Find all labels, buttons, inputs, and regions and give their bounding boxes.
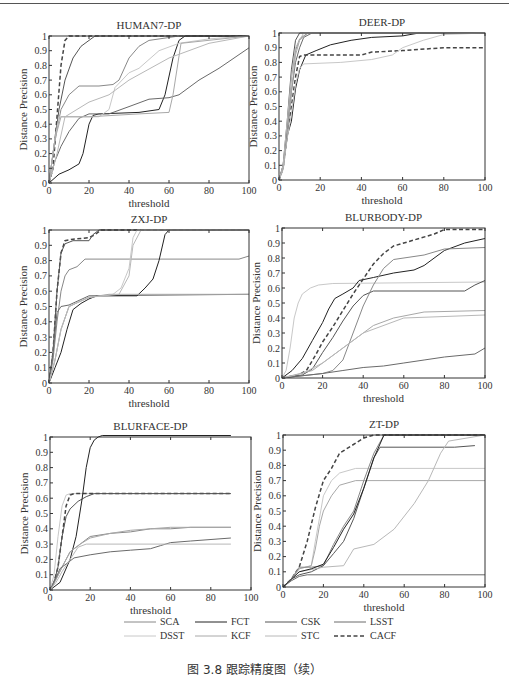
x-tick-label: 20 (84, 385, 94, 396)
chart-title: DEER-DP (359, 16, 405, 28)
y-axis-title: Distance Precision (247, 65, 259, 148)
y-tick-label: 0 (276, 582, 281, 593)
y-tick-label: 0 (272, 175, 277, 186)
y-tick-label: 0.6 (35, 286, 48, 297)
y-tick-label: 0.9 (268, 238, 281, 249)
legend-item-lsst: LSST (334, 616, 393, 627)
series-line-dsst (282, 282, 485, 378)
x-axis-title: threshold (129, 397, 170, 409)
series-line-cacf (283, 435, 485, 587)
legend-label: CSK (301, 616, 321, 627)
y-tick-label: 0 (42, 378, 47, 389)
y-tick-label: 0 (275, 373, 280, 384)
plot-frame (49, 230, 249, 383)
series-line-sca (283, 435, 485, 587)
chart-title: HUMAN7-DP (117, 19, 182, 31)
y-tick-label: 0.5 (35, 104, 48, 115)
x-tick-label: 60 (399, 380, 409, 391)
series-line-fct (282, 239, 485, 379)
series-line-fct (283, 435, 485, 587)
plot-frame (49, 36, 249, 183)
series-line-sca (282, 248, 485, 379)
legend-label: STC (301, 630, 320, 641)
y-tick-label: 0.5 (265, 101, 278, 112)
series-line-kcf (49, 294, 249, 383)
y-tick-label: 0.6 (35, 89, 48, 100)
legend-item-dsst: DSST (124, 630, 184, 641)
y-tick-label: 0.3 (36, 539, 49, 550)
legend: SCAFCTCSKLSSTDSSTKCFSTCCACF (124, 616, 397, 641)
x-tick-label: 20 (318, 589, 328, 600)
y-tick-label: 0.9 (269, 445, 282, 456)
x-tick-label: 80 (204, 185, 214, 196)
y-tick-label: 0.7 (265, 72, 278, 83)
y-tick-label: 0.1 (35, 163, 48, 174)
y-tick-label: 0.1 (269, 566, 282, 577)
x-tick-label: 80 (440, 589, 450, 600)
series-line-stc (283, 435, 485, 587)
y-tick-label: 0.3 (35, 133, 48, 144)
chart-panel-zt-dp: ZT-DP02040608010000.10.20.30.40.50.60.70… (251, 418, 493, 613)
y-tick-label: 0.3 (265, 130, 278, 141)
y-tick-label: 0.4 (36, 523, 49, 534)
series-line-dsst (50, 494, 231, 590)
legend-item-kcf: KCF (195, 630, 251, 641)
series-line-sca (50, 527, 231, 590)
y-tick-label: 0.9 (35, 45, 48, 56)
x-tick-label: 60 (398, 182, 408, 193)
y-tick-label: 0.4 (265, 116, 278, 127)
x-tick-label: 40 (356, 182, 366, 193)
series-line-csk (50, 494, 231, 590)
y-tick-label: 0.3 (268, 328, 281, 339)
legend-label: LSST (370, 616, 393, 627)
y-tick-label: 0.8 (35, 60, 48, 71)
series-line-lsst (50, 538, 231, 590)
x-tick-label: 60 (164, 185, 174, 196)
legend-item-sca: SCA (124, 616, 180, 627)
y-axis-title: Distance Precision (251, 469, 263, 552)
legend-label: CACF (370, 630, 397, 641)
legend-label: KCF (231, 630, 251, 641)
x-tick-label: 80 (204, 385, 214, 396)
x-tick-label: 20 (85, 592, 95, 603)
x-tick-label: 40 (124, 385, 134, 396)
x-tick-label: 100 (478, 182, 493, 193)
series-line-fct (279, 33, 485, 180)
x-tick-label: 0 (280, 380, 285, 391)
series-line-lsst (283, 575, 485, 587)
x-axis-title: threshold (129, 197, 170, 209)
y-tick-label: 0.7 (36, 477, 49, 488)
x-tick-label: 40 (358, 380, 368, 391)
x-tick-label: 100 (244, 592, 259, 603)
y-tick-label: 0.7 (269, 475, 282, 486)
chart-panel-human7-dp: HUMAN7-DP02040608010000.10.20.30.40.50.6… (17, 19, 257, 209)
x-tick-label: 0 (281, 589, 286, 600)
y-tick-label: 0.6 (265, 86, 278, 97)
y-axis-title: Distance Precision (17, 68, 29, 151)
y-tick-label: 0.2 (269, 551, 282, 562)
legend-label: SCA (160, 616, 180, 627)
y-tick-label: 1 (42, 31, 47, 42)
series-line-cacf (50, 494, 231, 590)
y-tick-label: 0.6 (268, 283, 281, 294)
y-tick-label: 0.4 (35, 316, 48, 327)
series-line-stc (282, 315, 485, 378)
chart-title: ZXJ-DP (131, 213, 168, 225)
series-line-sca (49, 36, 249, 183)
series-line-cacf (49, 36, 249, 183)
series-line-fct (49, 36, 249, 183)
y-tick-label: 0.7 (35, 270, 48, 281)
series-line-cacf (49, 230, 249, 383)
series-line-stc (49, 36, 249, 183)
y-tick-label: 0.5 (268, 298, 281, 309)
series-line-dsst (49, 230, 249, 383)
y-tick-label: 0.5 (36, 508, 49, 519)
series-line-sca (279, 33, 485, 180)
series-line-lsst (49, 294, 249, 383)
legend-item-fct: FCT (195, 616, 249, 627)
legend-item-cacf: CACF (334, 630, 397, 641)
y-tick-label: 0.5 (35, 301, 48, 312)
y-tick-label: 0.5 (269, 506, 282, 517)
x-tick-label: 40 (124, 185, 134, 196)
x-tick-label: 100 (478, 589, 493, 600)
